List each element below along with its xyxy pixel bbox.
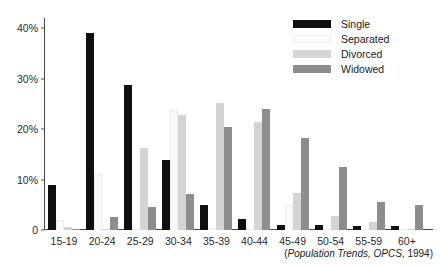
bar-separated (361, 229, 369, 230)
y-tick-label: 40% (17, 23, 38, 33)
bar-widowed (301, 138, 309, 230)
bar-widowed (186, 194, 194, 230)
y-tick-mark (41, 129, 44, 130)
bar-group (235, 18, 273, 230)
bar-group (45, 18, 83, 230)
bar-single (353, 226, 361, 230)
bar-single (391, 226, 399, 230)
swatch-separated-icon (293, 35, 331, 43)
bar-widowed (110, 217, 118, 230)
bar-single (48, 185, 56, 230)
bar-widowed (148, 207, 156, 230)
bar-group (159, 18, 197, 230)
legend-label: Separated (341, 33, 389, 45)
x-tick-label: 15-19 (45, 234, 83, 252)
bar-widowed (72, 229, 80, 230)
bar-separated (94, 174, 102, 230)
y-tick-mark (41, 230, 44, 231)
bar-widowed (262, 109, 270, 230)
bar-separated (56, 220, 64, 230)
y-tick-mark (41, 78, 44, 79)
legend-item: Separated (293, 32, 433, 46)
legend-item: Divorced (293, 47, 433, 61)
y-tick-mark (41, 28, 44, 29)
bar-single (124, 85, 132, 230)
x-tick-label: 35-39 (197, 234, 235, 252)
bar-widowed (415, 205, 423, 230)
swatch-divorced-icon (293, 50, 331, 58)
bar-single (277, 225, 285, 230)
bar-separated (285, 205, 293, 230)
bar-divorced (254, 122, 262, 230)
bar-single (315, 225, 323, 230)
x-tick-label: 20-24 (83, 234, 121, 252)
x-tick-label: 40-44 (235, 234, 273, 252)
bar-divorced (64, 227, 72, 230)
bar-divorced (331, 216, 339, 230)
source-year: , 1994) (402, 248, 433, 259)
y-tick-label: 0 (32, 225, 38, 235)
bar-single (238, 219, 246, 230)
legend-label: Widowed (341, 63, 384, 75)
y-axis-ticks: 010%20%30%40% (0, 0, 44, 247)
chart-legend: SingleSeparatedDivorcedWidowed (293, 17, 433, 77)
x-tick-label: 25-29 (121, 234, 159, 252)
bar-separated (170, 110, 178, 230)
bar-divorced (140, 148, 148, 230)
bar-divorced (102, 229, 110, 230)
y-tick-mark (41, 179, 44, 180)
bar-separated (132, 229, 140, 231)
bar-separated (323, 229, 331, 231)
swatch-widowed-icon (293, 65, 331, 73)
bar-separated (208, 228, 216, 230)
bar-group (197, 18, 235, 230)
swatch-single-icon (293, 20, 331, 28)
legend-item: Widowed (293, 62, 433, 76)
legend-label: Divorced (341, 48, 382, 60)
bar-widowed (224, 127, 232, 230)
legend-label: Single (341, 18, 370, 30)
bar-chart: 010%20%30%40% 15-1920-2425-2930-3435-394… (0, 0, 441, 267)
x-tick-label: 30-34 (159, 234, 197, 252)
source-publication: Population Trends, OPCS (288, 248, 402, 259)
y-tick-label: 10% (17, 175, 38, 185)
bar-divorced (407, 229, 415, 230)
y-tick-label: 30% (17, 74, 38, 84)
bar-separated (246, 229, 254, 231)
bar-divorced (178, 115, 186, 230)
bar-divorced (293, 193, 301, 230)
bar-single (200, 205, 208, 230)
bar-single (86, 33, 94, 230)
bar-widowed (377, 202, 385, 230)
bar-group (83, 18, 121, 230)
bar-widowed (339, 167, 347, 230)
bar-divorced (369, 222, 377, 230)
bar-single (162, 160, 170, 230)
bar-group (121, 18, 159, 230)
y-tick-label: 20% (17, 124, 38, 134)
source-citation: (Population Trends, OPCS, 1994) (284, 248, 433, 260)
bar-divorced (216, 103, 224, 230)
legend-item: Single (293, 17, 433, 31)
bar-separated (399, 229, 407, 230)
